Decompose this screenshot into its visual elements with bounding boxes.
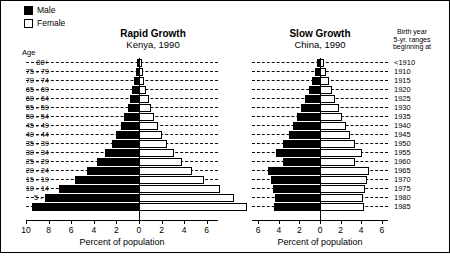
bar-male bbox=[121, 122, 139, 130]
pyramid-row bbox=[26, 175, 218, 184]
bar-female bbox=[139, 158, 182, 166]
x-tick-label-k-r-0: 0 bbox=[132, 225, 146, 235]
x-tick-c-r-4 bbox=[361, 220, 362, 224]
birth-year-label-10: 1955 bbox=[392, 148, 450, 157]
bar-male bbox=[276, 149, 320, 157]
china-growth-label: Slow Growth bbox=[245, 28, 395, 39]
pyramid-row bbox=[26, 130, 218, 139]
bar-female bbox=[320, 185, 365, 193]
bar-female bbox=[320, 158, 355, 166]
x-tick-label-c-r-6: 6 bbox=[375, 225, 389, 235]
bar-female bbox=[320, 176, 367, 184]
pyramid-plot-kenya bbox=[26, 58, 218, 220]
bar-male bbox=[128, 104, 139, 112]
bar-male bbox=[87, 167, 139, 175]
bar-female bbox=[139, 176, 205, 184]
kenya-x-axis-label: Percent of population bbox=[32, 237, 212, 247]
china-zero-axis bbox=[320, 58, 321, 220]
bar-male bbox=[309, 86, 320, 94]
birth-year-label-5: 1930 bbox=[392, 103, 450, 112]
x-tick-k-l-4 bbox=[94, 220, 95, 224]
bar-female bbox=[320, 86, 332, 94]
bar-female bbox=[320, 131, 350, 139]
figure-border-bottom bbox=[0, 252, 450, 253]
bar-male bbox=[312, 77, 320, 85]
bar-female bbox=[139, 113, 154, 121]
bar-male bbox=[271, 176, 320, 184]
bar-female bbox=[139, 167, 192, 175]
x-tick-k-r-0 bbox=[139, 220, 140, 224]
birth-year-label-12: 1965 bbox=[392, 166, 450, 175]
x-tick-k-l-10 bbox=[26, 220, 27, 224]
bar-male bbox=[275, 194, 320, 202]
bar-male bbox=[32, 203, 139, 211]
bar-female bbox=[139, 194, 234, 202]
x-tick-label-k-r-2: 2 bbox=[155, 225, 169, 235]
pyramid-row bbox=[26, 157, 218, 166]
pyramid-row bbox=[26, 112, 218, 121]
bar-female bbox=[320, 149, 362, 157]
pyramid-row bbox=[26, 202, 218, 211]
bar-female bbox=[139, 149, 174, 157]
bar-female bbox=[139, 131, 162, 139]
kenya-country-year: Kenya, 1990 bbox=[78, 39, 228, 50]
birth-year-label-3: 1920 bbox=[392, 85, 450, 94]
birth-year-label-14: 1975 bbox=[392, 184, 450, 193]
x-tick-label-k-l-4: 4 bbox=[87, 225, 101, 235]
pyramid-row bbox=[26, 166, 218, 175]
birth-year-label-6: 1935 bbox=[392, 112, 450, 121]
pyramid-row bbox=[26, 103, 218, 112]
birth-year-label-11: 1960 bbox=[392, 157, 450, 166]
birth-year-header-line1: Birth year bbox=[376, 28, 448, 36]
x-tick-label-k-l-2: 2 bbox=[109, 225, 123, 235]
bar-male bbox=[124, 113, 139, 121]
bar-male bbox=[112, 140, 139, 148]
birth-year-label-9: 1950 bbox=[392, 139, 450, 148]
figure-border-top bbox=[0, 0, 450, 1]
x-tick-c-r-0 bbox=[320, 220, 321, 224]
pyramid-row bbox=[26, 121, 218, 130]
x-tick-c-l-2 bbox=[299, 220, 300, 224]
bar-female bbox=[139, 140, 167, 148]
bar-female bbox=[320, 203, 364, 211]
birth-year-header-line2: 5-yr. ranges bbox=[376, 36, 448, 44]
male-swatch-icon bbox=[24, 6, 33, 15]
x-tick-k-l-6 bbox=[71, 220, 72, 224]
bar-male bbox=[283, 158, 320, 166]
female-swatch-icon bbox=[24, 19, 33, 28]
bar-female bbox=[320, 194, 363, 202]
birth-year-label-2: 1915 bbox=[392, 76, 450, 85]
x-tick-k-r-2 bbox=[162, 220, 163, 224]
pyramid-row bbox=[26, 94, 218, 103]
legend-item-female: Female bbox=[24, 17, 65, 29]
bar-female bbox=[320, 104, 339, 112]
bar-female bbox=[320, 167, 369, 175]
pyramid-row bbox=[26, 193, 218, 202]
bar-female bbox=[139, 185, 220, 193]
birth-year-label-8: 1945 bbox=[392, 130, 450, 139]
x-tick-label-k-l-10: 10 bbox=[19, 225, 33, 235]
china-country-year: China, 1990 bbox=[245, 39, 395, 50]
bar-male bbox=[293, 122, 320, 130]
bar-female bbox=[320, 77, 329, 85]
bar-female bbox=[139, 95, 149, 103]
bar-male bbox=[305, 95, 320, 103]
bar-male bbox=[289, 131, 320, 139]
age-axis-header: Age bbox=[22, 48, 35, 57]
pyramid-row bbox=[26, 148, 218, 157]
kenya-x-axis bbox=[26, 220, 218, 221]
x-tick-c-l-4 bbox=[279, 220, 280, 224]
legend: Male Female bbox=[24, 4, 65, 30]
x-tick-k-r-6 bbox=[207, 220, 208, 224]
bar-male bbox=[274, 203, 320, 211]
china-x-axis-label: Percent of population bbox=[230, 237, 410, 247]
kenya-zero-axis bbox=[139, 58, 140, 220]
bar-female bbox=[320, 140, 355, 148]
kenya-rows bbox=[26, 58, 218, 220]
bar-male bbox=[283, 140, 320, 148]
x-tick-label-c-r-2: 2 bbox=[334, 225, 348, 235]
pyramid-row bbox=[26, 184, 218, 193]
bar-female bbox=[320, 95, 335, 103]
birth-year-label-15: 1980 bbox=[392, 193, 450, 202]
pyramid-row bbox=[26, 58, 218, 67]
